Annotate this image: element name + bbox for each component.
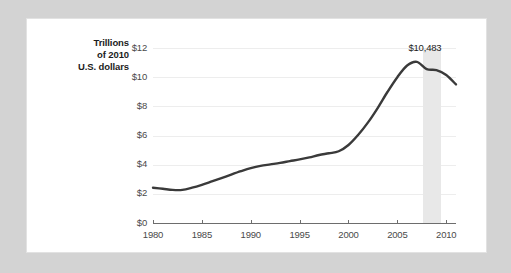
x-axis-tick-label: 1980 bbox=[133, 229, 173, 240]
chart-card: Trillions of 2010 U.S. dollars $0$2$4$6$… bbox=[26, 18, 487, 253]
y-axis-tick-label: $6 bbox=[119, 129, 147, 140]
x-axis-line bbox=[153, 223, 456, 224]
y-axis-tick-label: $4 bbox=[119, 158, 147, 169]
x-axis-tick-mark bbox=[446, 220, 447, 223]
x-axis-left-cap bbox=[153, 220, 154, 223]
peak-value-annotation: $10,483 bbox=[408, 42, 441, 53]
y-axis-tick-label: $2 bbox=[119, 187, 147, 198]
x-axis-tick-mark bbox=[397, 220, 398, 223]
x-axis-tick-mark bbox=[251, 220, 252, 223]
x-axis-tick-mark bbox=[300, 220, 301, 223]
x-axis-tick-label: 2000 bbox=[328, 229, 368, 240]
line-chart: Trillions of 2010 U.S. dollars $0$2$4$6$… bbox=[27, 19, 488, 254]
x-axis-tick-label: 1990 bbox=[231, 229, 271, 240]
x-axis-tick-label: 1985 bbox=[182, 229, 222, 240]
data-line bbox=[27, 19, 488, 254]
x-axis-tick-label: 1995 bbox=[280, 229, 320, 240]
x-axis-tick-mark bbox=[348, 220, 349, 223]
y-axis-tick-label: $0 bbox=[119, 217, 147, 228]
x-axis-tick-mark bbox=[202, 220, 203, 223]
y-axis-tick-label: $12 bbox=[119, 42, 147, 53]
y-axis-tick-label: $10 bbox=[119, 71, 147, 82]
x-axis-tick-label: 2010 bbox=[426, 229, 466, 240]
y-axis-tick-label: $8 bbox=[119, 100, 147, 111]
x-axis-tick-label: 2005 bbox=[377, 229, 417, 240]
